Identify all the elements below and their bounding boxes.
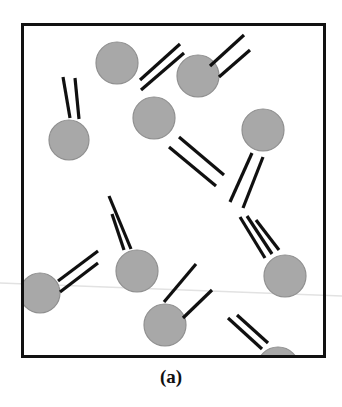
particle-circle (144, 304, 186, 346)
particle-circle (177, 55, 219, 97)
particle-circle (242, 109, 284, 151)
particle-circle (116, 250, 158, 292)
figure-container: (a) (0, 0, 342, 407)
particle-circle (264, 255, 306, 297)
figure-caption: (a) (0, 366, 342, 388)
particle-circle (133, 97, 175, 139)
diagram-background (0, 0, 342, 407)
particle-circle (20, 273, 60, 313)
particle-circle (96, 42, 138, 84)
particle-circle (49, 120, 89, 160)
composite-microstructure-diagram (0, 0, 342, 407)
